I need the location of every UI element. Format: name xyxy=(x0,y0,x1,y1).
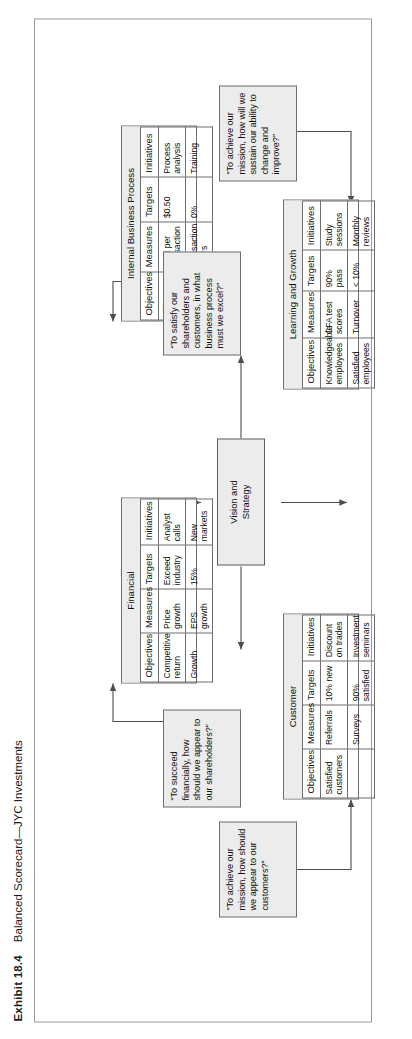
cell-initiative: Analyst calls xyxy=(158,499,185,545)
scorecard-table-financial: Objectives Measures Targets Initiatives … xyxy=(141,498,213,682)
question-internal-text: “To satisfy our shareholders and custome… xyxy=(169,272,225,348)
scorecard-financial: Financial Objectives Measures Targets In… xyxy=(121,497,197,683)
table-header-row: Objectives Measures Targets Initiatives xyxy=(141,127,158,320)
table-header-row: Objectives Measures Targets Initiatives xyxy=(141,499,158,682)
cell-target: 90% satisfied xyxy=(347,660,374,704)
cell-initiative: Study sessions xyxy=(320,201,347,250)
cell-target: 90% pass xyxy=(320,249,347,290)
cell-target: 15% xyxy=(185,544,212,588)
cell-measure: Surveys xyxy=(347,704,374,748)
question-customer: “To achieve our mission, how should we a… xyxy=(219,821,297,917)
col-measures: Measures xyxy=(141,221,158,271)
table-header-row: Objectives Measures Targets Initiatives xyxy=(303,615,320,798)
col-initiatives: Initiatives xyxy=(141,127,158,177)
col-objectives: Objectives xyxy=(303,748,320,797)
diagram-frame: Vision andStrategy Financial Objectives … xyxy=(34,18,372,1022)
col-targets: Targets xyxy=(141,177,158,221)
table-row: Competitive return Price growth Exceed i… xyxy=(158,499,185,682)
cell-initiative: Discount on trades xyxy=(320,615,347,661)
card-title-learning: Learning and Growth xyxy=(284,200,303,388)
cell-objective: Knowledgeable employees xyxy=(320,337,347,387)
col-measures: Measures xyxy=(303,290,320,337)
scorecard-learning: Learning and Growth Objectives Measures … xyxy=(283,199,359,389)
cell-target: 0% xyxy=(185,177,212,221)
col-objectives: Objectives xyxy=(303,337,320,387)
col-objectives: Objectives xyxy=(141,632,158,681)
cell-objective: Satisfied customers xyxy=(320,748,347,797)
scorecard-table-learning: Objectives Measures Targets Initiatives … xyxy=(303,200,375,388)
cell-target: Exceed industry xyxy=(158,544,185,588)
cell-measure: CFA test scores xyxy=(320,290,347,337)
cell-target: 10% new xyxy=(320,660,347,704)
card-title-internal: Internal Business Process xyxy=(122,126,141,320)
question-customer-text: “To achieve our mission, how should we a… xyxy=(225,828,270,910)
exhibit-title: Exhibit 18.4Balanced Scorecard—JYC Inves… xyxy=(12,740,24,1021)
table-row: Knowledgeable employees CFA test scores … xyxy=(320,201,347,388)
question-learning: “To achieve our mission, how will we sus… xyxy=(219,85,297,181)
col-initiatives: Initiatives xyxy=(303,615,320,661)
cell-initiative: Process analysis xyxy=(158,127,185,177)
question-financial-text: “To succeed financially, how should we a… xyxy=(169,718,214,800)
col-measures: Measures xyxy=(141,588,158,632)
scorecard-table-customer: Objectives Measures Targets Initiatives … xyxy=(303,614,375,798)
cell-objective: Growth xyxy=(185,632,212,681)
cell-measure: EPS growth xyxy=(185,588,212,632)
cell-initiative: Monthly reviews xyxy=(347,201,374,250)
col-targets: Targets xyxy=(303,249,320,290)
cell-objective: Satisfied employees xyxy=(347,337,374,387)
cell-initiative: Investment seminars xyxy=(347,615,374,661)
question-financial: “To succeed financially, how should we a… xyxy=(163,709,241,807)
col-measures: Measures xyxy=(303,704,320,748)
cell-objective: Competitive return xyxy=(158,632,185,681)
cell-objective xyxy=(347,748,374,797)
table-row: Surveys 90% satisfied Investment seminar… xyxy=(347,615,374,798)
cell-initiative: New markets xyxy=(185,499,212,545)
exhibit-stage: Exhibit 18.4Balanced Scorecard—JYC Inves… xyxy=(0,0,412,1039)
vision-label: Vision andStrategy xyxy=(229,480,252,523)
card-title-customer: Customer xyxy=(284,614,303,798)
exhibit-title-text: Balanced Scorecard—JYC Investments xyxy=(12,740,24,942)
card-title-financial: Financial xyxy=(122,498,141,682)
col-targets: Targets xyxy=(141,544,158,588)
exhibit-number: Exhibit 18.4 xyxy=(12,955,24,1021)
cell-measure: Referrals xyxy=(320,704,347,748)
col-initiatives: Initiatives xyxy=(141,499,158,545)
col-initiatives: Initiatives xyxy=(303,201,320,250)
table-header-row: Objectives Measures Targets Initiatives xyxy=(303,201,320,388)
scorecard-customer: Customer Objectives Measures Targets Ini… xyxy=(283,613,359,799)
cell-target: < 10% xyxy=(347,249,374,290)
col-targets: Targets xyxy=(303,660,320,704)
question-internal: “To satisfy our shareholders and custome… xyxy=(163,251,241,355)
cell-measure: Turnover xyxy=(347,290,374,337)
cell-initiative: Training xyxy=(185,127,212,177)
table-row: Satisfied customers Referrals 10% new Di… xyxy=(320,615,347,798)
question-learning-text: “To achieve our mission, how will we sus… xyxy=(225,92,281,174)
table-row: Satisfied employees Turnover < 10% Month… xyxy=(347,201,374,388)
col-objectives: Objectives xyxy=(141,271,158,319)
vision-and-strategy-box: Vision andStrategy xyxy=(217,438,265,565)
table-row: Growth EPS growth 15% New markets xyxy=(185,499,212,682)
cell-target: $0.50 xyxy=(158,177,185,221)
cell-measure: Price growth xyxy=(158,588,185,632)
